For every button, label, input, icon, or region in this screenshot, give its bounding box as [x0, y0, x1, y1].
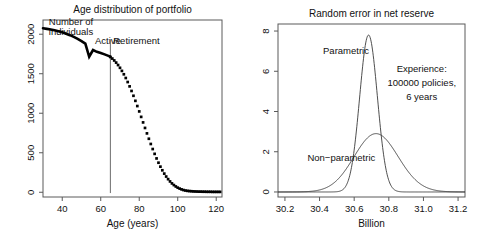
experience-line-3: 6 years	[406, 91, 437, 102]
series-parametric	[278, 35, 465, 192]
data-point	[153, 153, 156, 156]
chart-title-random-error: Random error in net reserve	[309, 8, 434, 19]
age-distribution-chart: Age distribution of portfolio40608010012…	[0, 0, 245, 238]
experience-line-2: 100000 policies,	[387, 77, 456, 88]
data-point	[117, 64, 120, 67]
data-point	[126, 81, 129, 84]
y-tick-label-left: 0	[25, 190, 36, 195]
data-point	[219, 191, 222, 194]
y-tick-label-right: 6	[260, 69, 271, 74]
series-nonparametric	[278, 134, 465, 192]
x-tick-label-right: 30.6	[345, 203, 364, 214]
data-point	[149, 143, 152, 146]
data-point	[136, 105, 139, 108]
x-tick-label-left: 100	[170, 203, 186, 214]
x-tick-label-left: 120	[208, 203, 224, 214]
data-point	[132, 94, 135, 97]
experience-line-1: Experience:	[397, 63, 447, 74]
y-tick-label-right: 8	[260, 28, 271, 33]
plot-frame-left	[43, 20, 222, 197]
data-point	[122, 73, 125, 76]
x-tick-label-left: 80	[134, 203, 145, 214]
y-tick-label-left: 1500	[25, 63, 36, 84]
series-retirement-dotted	[109, 56, 221, 194]
y-tick-label-right: 4	[260, 109, 271, 114]
data-point	[163, 172, 166, 175]
x-tick-label-right: 31.2	[449, 203, 468, 214]
x-axis-title-right: Billion	[358, 218, 385, 229]
data-point	[151, 148, 154, 151]
data-point	[121, 70, 124, 73]
chart-panel-random-error: Random error in net reserve30.230.430.63…	[245, 0, 490, 238]
figure-root: Age distribution of portfolio40608010012…	[0, 0, 490, 238]
y-tick-label-left: 500	[25, 145, 36, 161]
data-point	[134, 99, 137, 102]
chart-panel-age-distribution: Age distribution of portfolio40608010012…	[0, 0, 245, 238]
data-point	[138, 110, 141, 113]
retirement-label: Retirement	[113, 35, 160, 46]
x-tick-label-right: 30.2	[276, 203, 295, 214]
x-tick-label-left: 60	[95, 203, 106, 214]
x-tick-label-right: 30.4	[310, 203, 329, 214]
y-tick-label-left: 1000	[25, 103, 36, 124]
nonparametric-label: Non−parametric	[307, 152, 375, 163]
data-point	[157, 161, 160, 164]
random-error-chart: Random error in net reserve30.230.430.63…	[245, 0, 490, 238]
data-point	[140, 116, 143, 119]
x-tick-label-right: 31.0	[414, 203, 433, 214]
plot-frame-right	[278, 24, 465, 197]
data-point	[142, 121, 145, 124]
data-point	[124, 77, 127, 80]
data-point	[144, 127, 147, 130]
y-tick-label-right: 0	[260, 189, 271, 194]
data-point	[148, 137, 151, 140]
x-tick-label-left: 40	[57, 203, 68, 214]
x-axis-title-left: Age (years)	[107, 218, 159, 229]
data-point	[119, 66, 122, 69]
data-point	[165, 175, 168, 178]
data-point	[146, 132, 149, 135]
y-tick-label-right: 2	[260, 149, 271, 154]
data-point	[155, 157, 158, 160]
x-tick-label-right: 30.8	[380, 203, 399, 214]
y-tick-label-left: 2000	[25, 24, 36, 45]
parametric-label: Parametric	[323, 45, 369, 56]
data-point	[128, 85, 131, 88]
data-point	[130, 90, 133, 93]
data-point	[161, 169, 164, 172]
data-point	[115, 61, 118, 64]
data-point	[159, 165, 162, 168]
chart-title-age-distribution: Age distribution of portfolio	[73, 4, 192, 15]
